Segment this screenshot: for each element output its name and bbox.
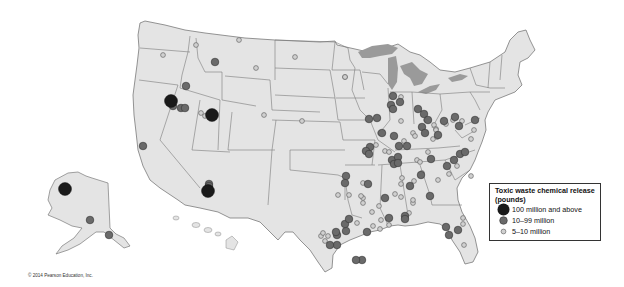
release-marker-medium	[182, 82, 190, 90]
release-marker-medium	[427, 155, 435, 163]
release-marker-small	[411, 198, 416, 203]
release-marker-small	[426, 150, 431, 155]
release-marker-small	[370, 210, 375, 215]
release-marker-small	[359, 194, 364, 199]
release-marker-medium	[394, 159, 402, 167]
release-marker-small	[374, 143, 379, 148]
release-marker-medium	[443, 162, 451, 170]
release-marker-medium	[211, 58, 219, 66]
release-marker-medium	[139, 142, 147, 150]
release-marker-medium	[442, 223, 450, 231]
legend-label-large: 100 million and above	[512, 205, 582, 214]
legend-item-large: 100 million and above	[495, 204, 595, 215]
release-marker-small	[336, 193, 341, 198]
release-marker-small	[387, 150, 392, 155]
release-marker-small	[237, 38, 242, 43]
release-marker-medium	[434, 131, 442, 139]
release-marker-small	[418, 160, 423, 165]
release-marker-medium	[389, 92, 397, 100]
release-marker-medium	[333, 241, 341, 249]
release-marker-small	[254, 66, 259, 71]
legend-item-medium: 10–99 million	[495, 215, 595, 226]
release-marker-small	[262, 113, 267, 118]
release-marker-medium	[421, 129, 429, 137]
release-marker-small	[436, 178, 441, 183]
release-marker-medium	[105, 231, 113, 239]
release-marker-small	[194, 43, 199, 48]
release-marker-small	[378, 227, 383, 232]
release-marker-small	[321, 231, 326, 236]
release-marker-medium	[342, 172, 350, 180]
release-marker-medium	[461, 148, 469, 156]
release-marker-small	[399, 182, 404, 187]
release-marker-medium	[424, 116, 432, 124]
release-marker-large	[165, 95, 178, 108]
release-marker-small	[461, 222, 466, 227]
release-marker-medium	[471, 116, 479, 124]
release-marker-medium	[455, 122, 463, 130]
release-marker-medium	[326, 241, 334, 249]
release-marker-medium	[364, 180, 372, 188]
release-marker-medium	[385, 214, 393, 222]
release-marker-medium	[451, 113, 459, 121]
release-marker-small	[361, 201, 366, 206]
release-marker-medium	[342, 227, 350, 235]
release-marker-medium	[450, 156, 458, 164]
hawaii-islands	[173, 216, 238, 250]
release-marker-small	[161, 53, 166, 58]
release-marker-medium	[373, 114, 381, 122]
release-marker-medium	[440, 117, 448, 125]
release-marker-small	[469, 137, 474, 142]
release-marker-small	[387, 223, 392, 228]
release-marker-medium	[381, 194, 389, 202]
release-marker-medium	[406, 182, 414, 190]
release-marker-small	[447, 172, 452, 177]
medium-circle-icon	[495, 216, 511, 225]
release-marker-medium	[389, 105, 397, 113]
release-marker-medium	[363, 228, 371, 236]
small-circle-icon	[495, 228, 511, 235]
release-marker-medium	[417, 171, 425, 179]
release-marker-medium	[445, 231, 453, 239]
release-marker-medium	[352, 256, 360, 264]
copyright-notice: © 2014 Pearson Education, Inc.	[28, 273, 93, 278]
release-marker-medium	[181, 104, 189, 112]
release-marker-medium	[332, 228, 340, 236]
release-marker-large	[206, 109, 219, 122]
release-marker-medium	[86, 216, 94, 224]
release-marker-small	[347, 193, 352, 198]
release-marker-medium	[345, 215, 353, 223]
release-marker-medium	[395, 142, 403, 150]
release-marker-small	[343, 75, 348, 80]
release-marker-large	[59, 183, 72, 196]
release-marker-medium	[365, 115, 373, 123]
release-marker-small	[469, 174, 474, 179]
legend-label-medium: 10–99 million	[512, 216, 554, 225]
release-marker-small	[393, 192, 398, 197]
legend-label-small: 5–10 million	[512, 227, 550, 236]
release-marker-small	[326, 234, 331, 239]
legend-item-small: 5–10 million	[495, 226, 595, 237]
release-marker-small	[455, 164, 460, 169]
release-marker-small	[377, 204, 382, 209]
release-marker-medium	[454, 226, 462, 234]
release-marker-small	[472, 128, 477, 133]
release-marker-large	[202, 185, 215, 198]
release-marker-small	[371, 224, 376, 229]
release-marker-medium	[341, 179, 349, 187]
release-marker-small	[293, 55, 298, 60]
release-marker-small	[399, 195, 404, 200]
us-toxic-release-map	[0, 0, 624, 287]
map-legend: Toxic waste chemical release (pounds) 10…	[489, 183, 601, 241]
release-marker-medium	[401, 215, 409, 223]
release-marker-small	[400, 176, 405, 181]
release-marker-small	[300, 119, 305, 124]
release-marker-medium	[403, 142, 411, 150]
release-marker-small	[461, 216, 466, 221]
release-marker-small	[379, 218, 384, 223]
release-marker-small	[399, 119, 404, 124]
release-marker-small	[413, 134, 418, 139]
release-marker-medium	[396, 98, 404, 106]
large-circle-icon	[495, 203, 511, 216]
release-marker-small	[462, 243, 467, 248]
